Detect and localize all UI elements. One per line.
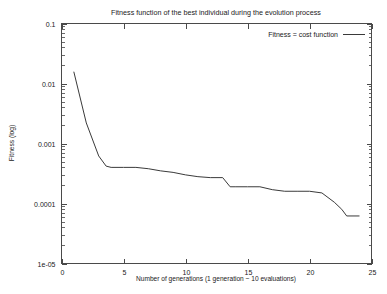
x-tick-label: 20 <box>307 269 315 276</box>
y-tick-label: 0.1 <box>46 21 56 28</box>
y-axis-minor-ticks <box>62 27 372 246</box>
x-tick-label: 25 <box>369 269 377 276</box>
series-line-fitness <box>74 72 359 216</box>
y-tick-label: 0.01 <box>42 81 56 88</box>
chart-figure: Fitness function of the best individual … <box>0 0 387 294</box>
x-axis-major-ticks <box>63 24 373 264</box>
y-axis-tick-labels: 1e-050.00010.0010.010.1 <box>34 21 56 268</box>
plot-area-frame <box>62 24 372 264</box>
chart-title: Fitness function of the best individual … <box>111 8 321 17</box>
y-tick-label: 1e-05 <box>38 261 56 268</box>
legend-label-fitness: Fitness = cost function <box>268 31 338 38</box>
x-tick-label: 0 <box>61 269 65 276</box>
x-tick-label: 5 <box>123 269 127 276</box>
chart-legend: Fitness = cost function <box>268 31 365 38</box>
fitness-evolution-line-chart: Fitness function of the best individual … <box>0 0 387 294</box>
y-axis-label: Fitness (log) <box>8 125 16 161</box>
y-tick-label: 0.001 <box>38 141 56 148</box>
x-axis-label: Number of generations (1 generation ~ 10… <box>136 275 296 283</box>
y-axis-major-ticks <box>62 25 372 265</box>
y-tick-label: 0.0001 <box>34 201 56 208</box>
